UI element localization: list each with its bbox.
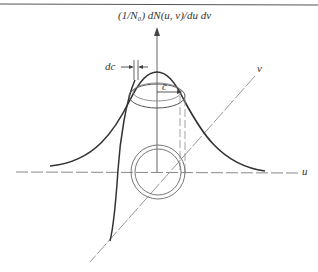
u-axis-label: u	[302, 165, 308, 177]
u-axis	[16, 172, 300, 173]
v-axis	[90, 76, 255, 262]
v-axis-label: v	[257, 62, 262, 74]
dc-arrow-icon	[129, 65, 134, 69]
radius-label: c	[162, 80, 167, 92]
top-rule	[0, 4, 318, 5]
ring-width-label: dc	[105, 60, 115, 72]
dc-arrow-right-icon	[138, 65, 143, 69]
distribution-diagram	[0, 0, 318, 272]
vertical-axis-label: (1/N₀) dN(u, v)/du dv	[118, 9, 211, 21]
vertical-axis-arrow-icon	[154, 27, 160, 36]
tube-left-edge	[110, 80, 135, 241]
